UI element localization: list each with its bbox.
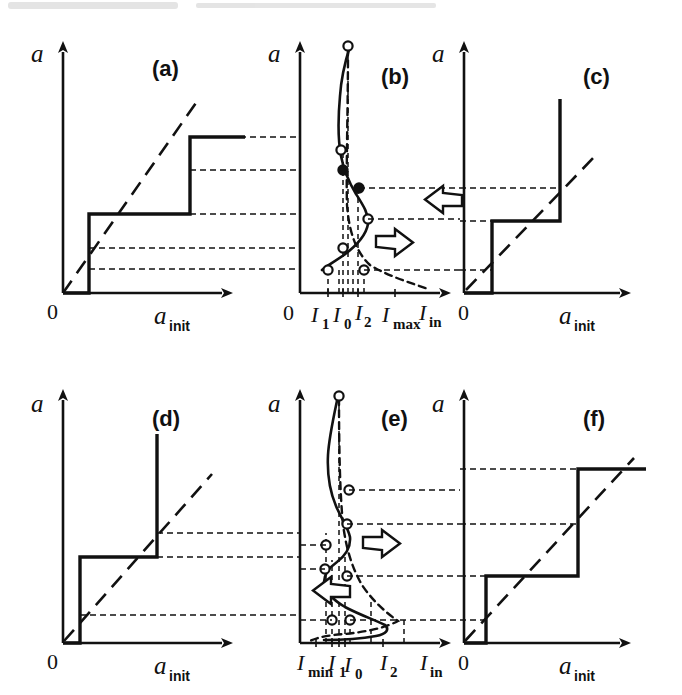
panel-e-unstable-branch xyxy=(310,398,398,641)
svg-text:I: I xyxy=(296,650,306,675)
panel-b-tick-label-I2: I 2 xyxy=(354,300,372,330)
panel-b-x-axis-label: I in xyxy=(418,300,442,330)
svg-text:init: init xyxy=(169,318,190,334)
panel-e-marker-open-1 xyxy=(334,391,343,400)
svg-text:I: I xyxy=(332,302,342,327)
svg-text:a: a xyxy=(559,652,572,679)
panel-c-caption: (c) xyxy=(583,64,610,89)
panel-e-droplines xyxy=(326,398,404,643)
panel-b-marker-open-2 xyxy=(336,145,345,154)
panel-c-reference-lines xyxy=(460,188,560,270)
svg-text:I: I xyxy=(381,302,391,327)
panel-b-tick-label-Imax: I max xyxy=(381,302,421,332)
panel-f: a 0 a init (f) xyxy=(432,390,646,684)
svg-text:I: I xyxy=(418,300,428,325)
panel-e-reference-lines xyxy=(300,490,460,620)
scan-smudge xyxy=(8,2,436,9)
panel-d: a 0 a init (d) xyxy=(31,390,300,684)
svg-text:2: 2 xyxy=(390,664,398,680)
svg-text:2: 2 xyxy=(364,314,372,330)
svg-text:in: in xyxy=(430,664,443,680)
panel-c-origin-label: 0 xyxy=(458,300,469,325)
panel-f-identity-line xyxy=(465,458,634,641)
panel-b-caption: (b) xyxy=(381,64,409,89)
panel-b-marker-open-4 xyxy=(338,243,347,252)
svg-text:a: a xyxy=(154,652,167,679)
panel-b-tick-label-I0: I 0 xyxy=(332,302,352,332)
svg-text:I: I xyxy=(327,650,337,675)
panel-a-y-axis-label: a xyxy=(31,40,44,67)
figure-root: a 0 a init (a) xyxy=(0,0,682,695)
svg-text:in: in xyxy=(429,314,442,330)
panel-b-marker-open-5 xyxy=(323,265,332,274)
panel-f-staircase xyxy=(464,469,646,643)
svg-text:max: max xyxy=(393,316,421,332)
svg-text:I: I xyxy=(310,302,320,327)
panel-c-y-axis-label: a xyxy=(432,40,445,67)
panel-b-marker-filled-1 xyxy=(338,165,347,174)
panel-a-caption: (a) xyxy=(152,56,179,81)
svg-text:I: I xyxy=(379,650,389,675)
panel-c-x-axis-label: a init xyxy=(559,302,595,334)
svg-text:init: init xyxy=(574,318,595,334)
panel-e-caption: (e) xyxy=(381,406,408,431)
svg-text:init: init xyxy=(574,668,595,684)
panel-e-tick-label-I2: I 2 xyxy=(379,650,398,680)
panel-e: a I min I 1 I 0 I 2 I in (e) xyxy=(268,390,460,682)
panel-c: a 0 a init (c) xyxy=(432,40,620,334)
panel-d-origin-label: 0 xyxy=(47,649,58,674)
multi-panel-figure: a 0 a init (a) xyxy=(0,0,682,695)
panel-c-staircase xyxy=(464,99,560,293)
panel-f-reference-lines xyxy=(460,469,578,620)
panel-b-left-block-arrow xyxy=(425,186,462,213)
panel-a-origin-label: 0 xyxy=(47,299,58,324)
panel-b-right-block-arrow xyxy=(376,229,413,256)
panel-f-y-axis-label: a xyxy=(432,390,445,417)
panel-b-marker-open-1 xyxy=(343,41,352,50)
svg-text:I: I xyxy=(354,300,364,325)
panel-a-x-axis-label: a init xyxy=(154,302,190,334)
svg-text:I: I xyxy=(419,650,429,675)
panel-d-x-axis-label: a init xyxy=(154,652,190,684)
panel-e-x-axis-label: I in xyxy=(419,650,443,680)
panel-f-origin-label: 0 xyxy=(458,650,469,675)
panel-d-reference-lines xyxy=(80,533,300,615)
panel-b: a 0 I 1 I 0 I 2 I max I in (b) xyxy=(268,40,462,332)
panel-b-y-axis-label: a xyxy=(268,40,281,67)
panel-b-stable-branch xyxy=(322,46,368,270)
panel-f-x-axis-label: a init xyxy=(559,652,595,684)
svg-text:I: I xyxy=(343,652,353,677)
panel-a-identity-line xyxy=(63,100,198,293)
panel-a-reference-lines xyxy=(89,137,300,269)
panel-e-y-axis-label: a xyxy=(268,390,281,417)
panel-e-stable-branch xyxy=(324,396,387,640)
svg-text:0: 0 xyxy=(355,666,363,682)
svg-text:a: a xyxy=(559,302,572,329)
panel-d-caption: (d) xyxy=(152,406,180,431)
panel-d-staircase xyxy=(63,434,157,643)
svg-text:init: init xyxy=(169,668,190,684)
panel-a: a 0 a init (a) xyxy=(31,40,300,334)
panel-b-origin-label: 0 xyxy=(283,300,294,325)
svg-text:0: 0 xyxy=(344,316,352,332)
svg-text:a: a xyxy=(154,302,167,329)
panel-e-right-block-arrow xyxy=(363,530,400,557)
svg-text:1: 1 xyxy=(322,316,330,332)
panel-f-caption: (f) xyxy=(583,406,605,431)
panel-d-y-axis-label: a xyxy=(31,390,44,417)
panel-b-tick-label-I1: I 1 xyxy=(310,302,330,332)
